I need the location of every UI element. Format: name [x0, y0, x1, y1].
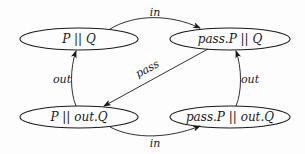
arrow-in-top [110, 18, 200, 29]
edge-out-right: out [236, 51, 260, 106]
node-p-q: P || Q [20, 28, 138, 50]
edge-label: in [150, 6, 161, 19]
node-label: P || out.Q [49, 110, 107, 124]
state-diagram: P || Q pass.P || Q P || out.Q pass.P || … [0, 0, 305, 154]
node-label: pass.P || Q [198, 32, 263, 46]
arrow-in-bottom [110, 126, 200, 136]
arrow-out-left [72, 51, 77, 106]
node-label: P || Q [61, 32, 96, 46]
edge-label: out [53, 73, 72, 86]
edge-pass: pass [104, 49, 208, 106]
edge-in-bottom: in [110, 126, 200, 150]
node-label: pass.P || out.Q [186, 110, 274, 124]
node-p-out-q: P || out.Q [20, 106, 138, 128]
node-pass-p-out-q: pass.P || out.Q [170, 106, 290, 128]
diagram-canvas: P || Q pass.P || Q P || out.Q pass.P || … [0, 0, 305, 154]
edge-label: out [241, 73, 260, 86]
arrow-out-right [236, 51, 241, 106]
arrow-pass [104, 49, 208, 106]
edge-in-top: in [110, 6, 200, 29]
edge-label: in [150, 137, 161, 150]
edge-out-left: out [53, 51, 76, 106]
node-pass-p-q: pass.P || Q [170, 28, 290, 50]
